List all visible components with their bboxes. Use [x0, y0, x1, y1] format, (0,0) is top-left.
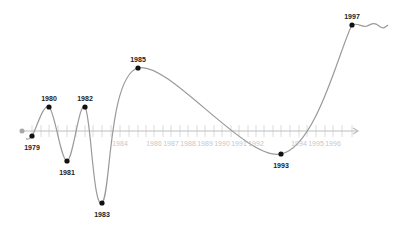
axis-label-1991: 1991: [231, 140, 247, 147]
point-marker-1980: [46, 104, 51, 109]
axis-label-1986: 1986: [146, 140, 162, 147]
point-marker-1993: [278, 151, 283, 156]
point-marker-1997: [349, 22, 354, 27]
year-label-1982: 1982: [77, 95, 93, 102]
timeline-diagram: 1979198019811982198319851993199719841986…: [0, 0, 413, 229]
axis-start-dot: [20, 129, 25, 134]
axis-label-1989: 1989: [197, 140, 213, 147]
year-label-1980: 1980: [41, 95, 57, 102]
axis-label-1988: 1988: [180, 140, 196, 147]
axis-label-1990: 1990: [214, 140, 230, 147]
axis-label-1984: 1984: [112, 140, 128, 147]
point-marker-1981: [64, 158, 69, 163]
timeline-canvas: [0, 0, 413, 229]
axis-label-1992: 1992: [248, 140, 264, 147]
point-marker-1985: [135, 65, 140, 70]
year-label-1993: 1993: [273, 162, 289, 169]
point-marker-1979: [29, 133, 34, 138]
axis-label-1995: 1995: [308, 140, 324, 147]
year-label-1981: 1981: [59, 169, 75, 176]
year-label-1983: 1983: [94, 211, 110, 218]
timeline-curve: [26, 25, 352, 203]
point-marker-1983: [99, 200, 104, 205]
year-label-1985: 1985: [130, 56, 146, 63]
axis-label-1987: 1987: [163, 140, 179, 147]
year-label-1997: 1997: [344, 13, 360, 20]
axis-label-1996: 1996: [325, 140, 341, 147]
curve-continuation: [352, 24, 388, 28]
axis-label-1994: 1994: [291, 140, 307, 147]
year-label-1979: 1979: [24, 144, 40, 151]
point-marker-1982: [82, 104, 87, 109]
